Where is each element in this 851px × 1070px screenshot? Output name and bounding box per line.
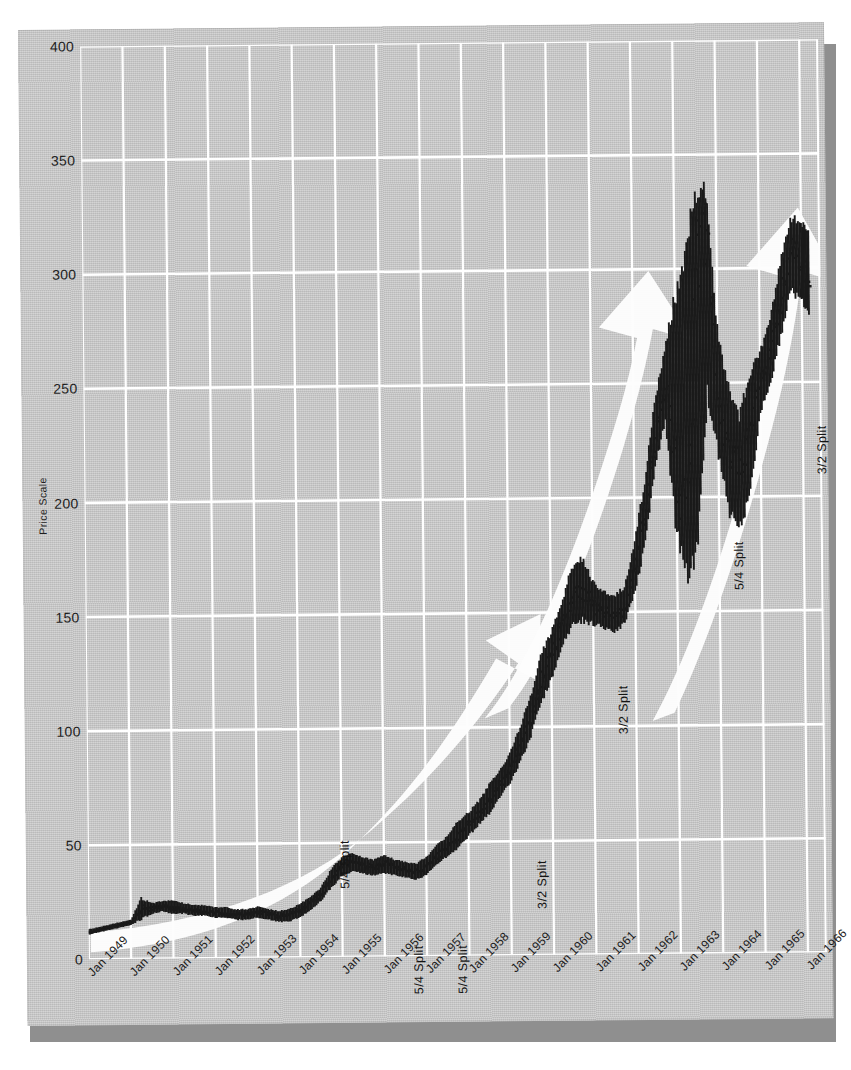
- scanned-chart-card: 400 350 300 250 200 150 100 50 0 Price S…: [18, 22, 834, 1026]
- split-label-6: 5/4 Split: [732, 541, 746, 590]
- split-label-7: 3/2 Split: [815, 425, 829, 474]
- split-label-1: 5/4 Split: [338, 840, 352, 889]
- y-tick-200: 200: [54, 495, 78, 511]
- hgrid-350: [81, 153, 819, 160]
- y-tick-250: 250: [53, 380, 77, 396]
- split-label-4: 3/2 Split: [535, 860, 549, 909]
- hgrid-400: [80, 39, 818, 46]
- split-label-5: 3/2 Split: [616, 685, 630, 734]
- x-axis-tick-labels: Jan 1949Jan 1950Jan 1951Jan 1952Jan 1953…: [89, 954, 850, 1041]
- split-annotations: 5/4 Split 5/4 Split 5/4 Split 3/2 Split …: [18, 22, 824, 30]
- y-tick-0: 0: [75, 951, 83, 967]
- plot-area: [80, 39, 827, 959]
- ohlc-price-bars: [81, 181, 818, 935]
- y-tick-300: 300: [52, 266, 76, 282]
- y-tick-400: 400: [50, 38, 74, 54]
- y-tick-150: 150: [55, 609, 79, 625]
- y-tick-50: 50: [66, 837, 82, 853]
- y-axis-tick-labels: 400 350 300 250 200 150 100 50 0: [18, 46, 83, 959]
- y-tick-100: 100: [56, 723, 80, 739]
- y-axis-title: Price Scale: [36, 477, 49, 535]
- gridlines: [80, 39, 827, 959]
- y-tick-350: 350: [51, 152, 75, 168]
- hgrid-200: [85, 496, 823, 503]
